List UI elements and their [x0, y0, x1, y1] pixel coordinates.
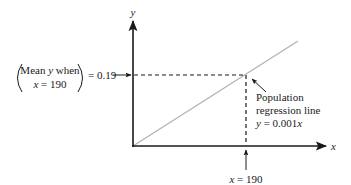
- mean-y-when-text: Mean y when: [20, 64, 80, 76]
- x-axis-label: x: [330, 140, 336, 152]
- mean-y-annotation: Mean y when x = 190 = 0.19: [18, 64, 132, 92]
- mean-y-value: = 0.19: [88, 69, 117, 81]
- regression-equation: y = 0.001x: [255, 117, 302, 129]
- regression-line-text: regression line: [256, 104, 321, 116]
- y-axis-label: y: [130, 6, 136, 18]
- population-text: Population: [256, 91, 304, 103]
- regression-diagram: y x Mean y when x = 190 = 0.19 Populatio…: [0, 0, 351, 185]
- x-190-label: x = 190: [228, 173, 263, 185]
- regression-line-label: Population regression line y = 0.001x: [255, 91, 321, 129]
- x-equals-190-text: x = 190: [32, 78, 67, 90]
